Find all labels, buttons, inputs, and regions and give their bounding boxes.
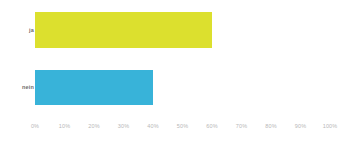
- bar-row: [35, 12, 330, 48]
- x-tick-label: 40%: [147, 124, 158, 130]
- x-tick-label: 50%: [177, 124, 188, 130]
- x-axis: 0%10%20%30%40%50%60%70%80%90%100%: [35, 124, 330, 136]
- category-label-ja: ja: [29, 28, 34, 34]
- x-tick-label: 30%: [118, 124, 129, 130]
- x-tick-label: 80%: [265, 124, 276, 130]
- x-tick-label: 70%: [236, 124, 247, 130]
- category-label-nein: nein: [22, 85, 34, 91]
- x-tick-label: 0%: [31, 124, 39, 130]
- bar-chart: ja nein 0%10%20%30%40%50%60%70%80%90%100…: [0, 0, 346, 144]
- x-tick-label: 20%: [88, 124, 99, 130]
- bar-nein[interactable]: [35, 70, 153, 105]
- plot-area: [35, 0, 330, 118]
- bar-ja[interactable]: [35, 12, 212, 48]
- x-tick-label: 100%: [323, 124, 337, 130]
- x-tick-label: 60%: [206, 124, 217, 130]
- x-tick-label: 90%: [295, 124, 306, 130]
- bar-row: [35, 70, 330, 105]
- x-tick-label: 10%: [59, 124, 70, 130]
